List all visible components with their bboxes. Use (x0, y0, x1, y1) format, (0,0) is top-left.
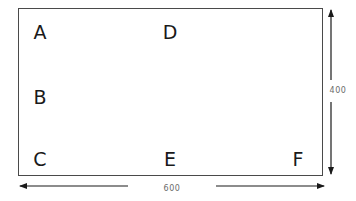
width-dimension-label: 600 (162, 185, 183, 193)
height-dimension-label: 400 (328, 87, 349, 95)
dimension-arrows (0, 0, 356, 201)
diagram-canvas: A D B C E F 400 600 (0, 0, 356, 201)
